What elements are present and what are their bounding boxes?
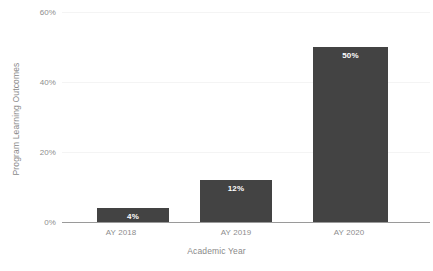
gridline-60 [62, 12, 430, 13]
bar-value-ay-2018: 4% [97, 212, 169, 221]
y-tick-label-20: 20% [16, 148, 56, 157]
bar-ay-2018[interactable]: 4% [97, 208, 169, 222]
x-tick-label-ay-2018: AY 2018 [57, 228, 185, 237]
x-axis-title: Academic Year [0, 246, 433, 256]
plot-area: 4% 12% 50% [62, 12, 430, 223]
y-tick-label-0: 0% [16, 218, 56, 227]
bar-ay-2019[interactable]: 12% [200, 180, 272, 222]
bar-ay-2020[interactable]: 50% [313, 47, 388, 222]
y-tick-label-60: 60% [16, 8, 56, 17]
bar-value-ay-2020: 50% [313, 51, 388, 60]
axis-baseline-0 [62, 222, 430, 223]
x-tick-label-ay-2020: AY 2020 [285, 228, 413, 237]
y-axis-tick-labels: 60% 40% 20% 0% [12, 12, 56, 223]
bar-value-ay-2019: 12% [200, 184, 272, 193]
y-tick-label-40: 40% [16, 78, 56, 87]
x-tick-label-ay-2019: AY 2019 [172, 228, 300, 237]
bar-chart: Program Learning Outcomes 60% 40% 20% 0%… [0, 0, 433, 271]
